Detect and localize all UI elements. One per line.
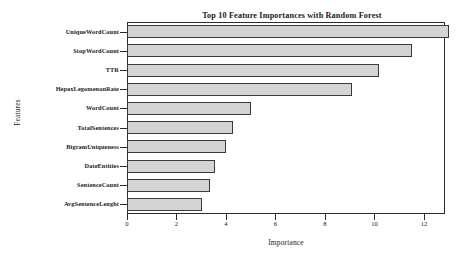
bar — [127, 198, 202, 211]
bar — [127, 25, 449, 38]
y-tick-mark — [120, 204, 127, 205]
bar-row — [127, 140, 226, 153]
x-axis-label: Importance — [127, 238, 445, 247]
y-tick-mark — [120, 70, 127, 71]
y-tick-mark — [120, 128, 127, 129]
figure-canvas: Top 10 Feature Importances with Random F… — [0, 0, 472, 267]
x-tick-label: 0 — [125, 220, 128, 227]
x-tick-label: 6 — [274, 220, 277, 227]
bar-row — [127, 44, 412, 57]
bar-row — [127, 160, 215, 173]
x-tick-label: 12 — [421, 220, 428, 227]
y-tick-mark — [120, 51, 127, 52]
y-tick-mark — [120, 147, 127, 148]
bar-row — [127, 198, 202, 211]
y-tick-label: TTR — [106, 66, 119, 73]
y-tick-label: BigramUniqueness — [66, 143, 119, 150]
bar — [127, 179, 210, 192]
bar — [127, 102, 251, 115]
bar — [127, 121, 233, 134]
chart-title: Top 10 Feature Importances with Random F… — [127, 11, 457, 20]
y-tick-mark — [120, 32, 127, 33]
y-tick-label: TotalSentences — [78, 124, 119, 131]
y-tick-label: AvgSentenceLenght — [64, 200, 119, 207]
x-tick-label: 8 — [323, 220, 326, 227]
x-tick-label: 10 — [371, 220, 378, 227]
bar — [127, 64, 379, 77]
y-tick-mark — [120, 185, 127, 186]
bar-row — [127, 64, 379, 77]
bar-row — [127, 121, 233, 134]
y-tick-label: DateEntities — [85, 162, 119, 169]
bar — [127, 160, 215, 173]
bar-row — [127, 179, 210, 192]
y-axis-label: Features — [13, 83, 22, 143]
y-tick-label: SentenceCount — [77, 181, 119, 188]
y-tick-label: UniqueWordCount — [66, 28, 119, 35]
y-tick-mark — [120, 108, 127, 109]
bar-row — [127, 25, 449, 38]
y-tick-mark — [120, 89, 127, 90]
bar — [127, 140, 226, 153]
y-tick-label: StopWordCount — [73, 47, 119, 54]
bar-row — [127, 83, 352, 96]
y-tick-label: WordCount — [86, 104, 119, 111]
bar — [127, 83, 352, 96]
x-tick-label: 4 — [224, 220, 227, 227]
bar — [127, 44, 412, 57]
y-tick-mark — [120, 166, 127, 167]
bar-row — [127, 102, 251, 115]
x-tick-label: 2 — [175, 220, 178, 227]
y-tick-label: HepaxLegomenonRate — [56, 85, 119, 92]
